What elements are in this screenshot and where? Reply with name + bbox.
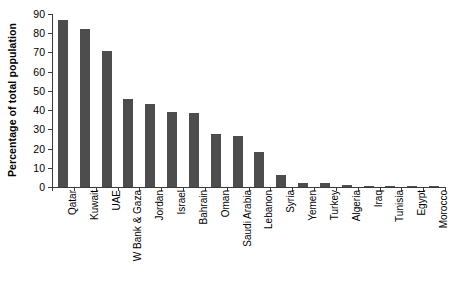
bar <box>429 186 439 187</box>
bar <box>407 186 417 187</box>
x-axis-label: Bahrain <box>198 190 209 224</box>
x-axis-label: W Bank & Gaza <box>132 190 143 261</box>
y-tick: 80 <box>52 33 53 34</box>
y-tick: 10 <box>52 168 53 169</box>
y-tick-mark <box>48 168 52 169</box>
x-axis-label: Kuwait <box>89 190 100 220</box>
x-axis-label: Lebanon <box>263 190 274 229</box>
y-tick-label: 30 <box>33 123 45 135</box>
x-axis-label: Syria <box>285 190 296 213</box>
x-axis-label: Oman <box>220 190 231 217</box>
y-tick: 20 <box>52 149 53 150</box>
x-axis-label: UAE <box>111 190 122 211</box>
x-axis-label: Saudi Arabia <box>242 190 253 247</box>
x-axis-label: Yemen <box>307 190 318 221</box>
y-tick-label: 80 <box>33 27 45 39</box>
y-tick-label: 40 <box>33 104 45 116</box>
bar <box>320 183 330 187</box>
y-tick-label: 10 <box>33 162 45 174</box>
y-tick: 40 <box>52 110 53 111</box>
x-axis-label: Morocco <box>438 190 449 228</box>
bar <box>276 175 286 187</box>
bar <box>254 152 264 187</box>
y-tick-mark <box>48 110 52 111</box>
y-tick-label: 20 <box>33 143 45 155</box>
y-axis-title: Percentage of total population <box>0 0 24 200</box>
bar <box>233 136 243 187</box>
bar <box>342 185 352 187</box>
bar <box>364 186 374 187</box>
x-axis-label: Jordan <box>154 190 165 221</box>
y-tick-mark <box>48 52 52 53</box>
bar <box>298 183 308 187</box>
y-tick-mark <box>48 129 52 130</box>
x-axis-label: Qatar <box>67 190 78 215</box>
y-tick: 90 <box>52 14 53 15</box>
y-tick: 30 <box>52 129 53 130</box>
x-axis-label: Tunisia <box>394 190 405 222</box>
bar <box>102 51 112 187</box>
x-axis-label: Algeria <box>351 190 362 221</box>
bar <box>189 113 199 187</box>
y-tick: 50 <box>52 91 53 92</box>
y-tick-label: 60 <box>33 66 45 78</box>
bar <box>58 20 68 187</box>
bar <box>385 186 395 187</box>
y-tick-mark <box>48 91 52 92</box>
bar <box>123 99 133 187</box>
y-tick-label: 50 <box>33 85 45 97</box>
bar <box>80 29 90 187</box>
y-tick-label: 90 <box>33 8 45 20</box>
y-tick-mark <box>48 72 52 73</box>
x-axis-labels: QatarKuwaitUAEW Bank & GazaJordanIsraelB… <box>52 190 446 286</box>
bar <box>211 134 221 187</box>
x-axis-label: Turkey <box>329 190 340 220</box>
y-tick-mark <box>48 33 52 34</box>
x-axis-label: Egypt <box>416 190 427 216</box>
plot-area: 0102030405060708090 <box>52 14 445 187</box>
y-axis-title-text: Percentage of total population <box>6 23 18 177</box>
y-tick: 70 <box>52 52 53 53</box>
y-tick-label: 70 <box>33 46 45 58</box>
y-tick-label: 0 <box>39 181 45 193</box>
x-axis-label: Iraq <box>373 190 384 207</box>
bar <box>167 112 177 187</box>
y-tick: 60 <box>52 72 53 73</box>
bar-chart: Percentage of total population 010203040… <box>0 0 453 288</box>
y-tick-mark <box>48 149 52 150</box>
bar <box>145 104 155 187</box>
y-tick-mark <box>48 14 52 15</box>
x-axis-label: Israel <box>176 190 187 214</box>
